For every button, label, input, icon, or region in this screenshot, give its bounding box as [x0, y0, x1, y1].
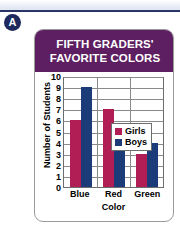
legend-label: Girls — [125, 127, 146, 136]
plot-area: Number of Students 109876543210 BlueRedG… — [35, 72, 174, 222]
legend-label: Boys — [125, 138, 147, 147]
y-tick-label: 4 — [56, 139, 61, 148]
y-tick-label: 8 — [56, 95, 61, 104]
y-tick-label: 10 — [51, 73, 61, 82]
x-tick-label: Blue — [63, 189, 97, 199]
y-tick-label: 3 — [56, 150, 61, 159]
page-top-rule — [0, 10, 180, 12]
legend-swatch-icon — [115, 139, 122, 146]
x-tick-label: Green — [130, 189, 164, 199]
y-tick-label: 0 — [56, 184, 61, 193]
x-axis-ticks: BlueRedGreen — [63, 189, 164, 199]
y-tick-label: 9 — [56, 84, 61, 93]
chart-legend: GirlsBoys — [111, 123, 152, 151]
chart-title: FIFTH GRADERS' FAVORITE COLORS — [35, 30, 174, 72]
chart-title-line-1: FIFTH GRADERS' — [56, 37, 153, 51]
x-axis-label: Color — [63, 202, 164, 212]
item-letter-badge: A — [4, 14, 21, 31]
y-tick-label: 6 — [56, 117, 61, 126]
y-tick-label: 7 — [56, 106, 61, 115]
chart-title-line-2: FAVORITE COLORS — [50, 51, 161, 65]
legend-item-boys: Boys — [115, 137, 147, 148]
bar-group-blue — [64, 77, 97, 187]
bar-girls-blue — [70, 120, 81, 187]
y-tick-label: 2 — [56, 161, 61, 170]
y-tick-label: 5 — [56, 128, 61, 137]
y-axis-ticks: 109876543210 — [48, 77, 61, 188]
bar-boys-blue — [81, 87, 92, 187]
bar-girls-green — [136, 154, 147, 187]
y-tick-label: 1 — [56, 172, 61, 181]
chart-card: FIFTH GRADERS' FAVORITE COLORS Number of… — [34, 29, 174, 222]
x-tick-label: Red — [97, 189, 131, 199]
legend-item-girls: Girls — [115, 126, 147, 137]
legend-swatch-icon — [115, 128, 122, 135]
